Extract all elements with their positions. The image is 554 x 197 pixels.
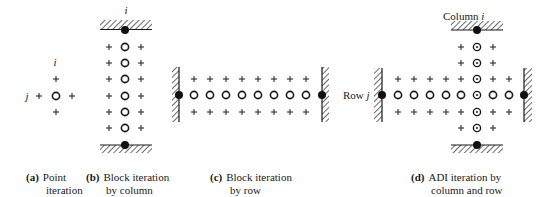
plus-icon [53, 109, 59, 115]
panel-d-adi: Column i Row j [343, 10, 532, 153]
boundary-dot-icon [473, 26, 481, 34]
boundary-dot-icon [121, 26, 129, 34]
plus-icon [53, 76, 59, 82]
plus-icon [69, 93, 75, 99]
column-label-i: i [124, 4, 127, 16]
panel-a-point-iteration: i j [23, 56, 75, 115]
adi-grid [394, 43, 512, 131]
caption-a: (a)Point iteration [26, 171, 83, 197]
boundary-dot-icon [520, 91, 528, 99]
column-grid [106, 43, 144, 131]
column-label: Column i [443, 10, 484, 22]
row-label: Row j [343, 89, 370, 101]
panel-c-block-by-row [172, 67, 329, 122]
boundary-dot-icon [121, 141, 129, 149]
row-grid [190, 76, 309, 115]
column-label-i: i [53, 56, 56, 68]
caption-c: (c)Block iteration by row [210, 171, 292, 197]
plus-icon [36, 93, 42, 99]
boundary-dot-icon [175, 91, 183, 99]
caption-b: (b)Block iteration by column [86, 171, 169, 197]
caption-d: (d)ADI iteration by column and row [411, 171, 502, 197]
open-circle-icon [52, 92, 59, 99]
boundary-dot-icon [318, 91, 326, 99]
boundary-dot-icon [378, 91, 386, 99]
panel-b-block-by-column: i [100, 4, 152, 153]
boundary-dot-icon [473, 141, 481, 149]
iteration-schemes-diagram: i j i [0, 0, 554, 197]
row-label-j: j [23, 90, 28, 102]
